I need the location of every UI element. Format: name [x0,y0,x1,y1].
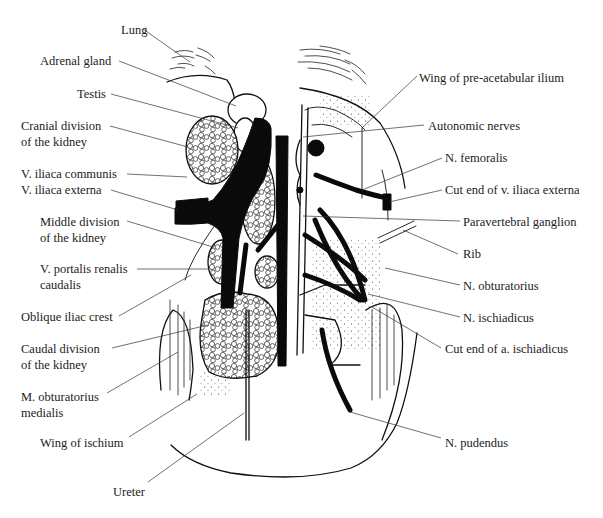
label-line: Wing of ischium [40,436,124,450]
label-line: Adrenal gland [40,54,112,68]
label-line: N. obturatorius [463,279,539,293]
label-adrenal-gland: Adrenal gland [40,54,112,68]
label-n-ischiadicus: N. ischiadicus [463,311,534,325]
stipple-right-pelvis [310,240,380,350]
label-cut-end-a-ischiadicus: Cut end of a. ischiadicus [445,342,568,356]
label-line: M. obturatorius [21,390,99,404]
paravertebral-ganglion-shape [297,187,303,193]
stipple-right-ilium [320,95,370,125]
label-v-portalis-renalis-caudalis: V. portalis renaliscaudalis [40,262,128,292]
leader-n-pudendus [350,412,441,438]
label-line: Cranial division [21,119,102,133]
leader-adrenal-gland [119,61,236,106]
n-femoralis-shape [316,175,388,198]
leader-n-ischiadicus [368,294,460,317]
leader-oblique-iliac-crest [119,275,191,316]
label-line: of the kidney [21,135,88,149]
label-testis: Testis [77,87,106,101]
label-n-obturatorius: N. obturatorius [463,279,539,293]
leader-wing-of-ischium [129,394,197,437]
label-line: V. iliaca communis [21,167,117,181]
v-iliaca-externa-shape [176,198,208,221]
label-line: Paravertebral ganglion [463,215,577,229]
label-line: N. pudendus [445,436,508,450]
label-line: Lung [121,23,148,37]
label-wing-pre-acetabular-ilium: Wing of pre-acetabular ilium [419,71,564,85]
label-line: Caudal division [21,342,101,356]
label-line: medialis [21,406,63,420]
label-ureter: Ureter [113,485,146,499]
leader-wing-pre-acetabular-ilium [363,76,417,127]
label-line: Middle division [40,215,120,229]
leader-ureter [148,413,244,482]
leader-n-femoralis [362,158,442,190]
anatomical-diagram: LungAdrenal glandTestisCranial divisiono… [0,0,603,518]
label-m-obturatorius-medialis: M. obturatoriusmedialis [21,390,99,420]
label-middle-division-kidney: Middle divisionof the kidney [40,215,120,245]
labels-right: Wing of pre-acetabular iliumAutonomic ne… [419,71,580,450]
label-line: V. portalis renalis [40,262,128,276]
label-line: Cut end of v. iliaca externa [445,183,580,197]
label-line: Oblique iliac crest [21,310,113,324]
leader-lung [143,29,190,62]
label-wing-of-ischium: Wing of ischium [40,436,124,450]
middle-division-kidney-right [255,256,279,288]
v-portalis-renalis-caudalis-shape [240,245,246,293]
label-caudal-division-kidney: Caudal divisionof the kidney [21,342,101,372]
drawing [160,46,418,477]
label-v-iliaca-communis: V. iliaca communis [21,167,117,181]
ilium-left-upper-curve [167,75,235,102]
autonomic-nerve-chain [296,140,300,205]
label-oblique-iliac-crest: Oblique iliac crest [21,310,113,324]
label-cranial-division-kidney: Cranial divisionof the kidney [21,119,102,149]
leader-cranial-division-kidney [110,126,188,147]
label-rib: Rib [463,247,481,261]
label-line: Wing of pre-acetabular ilium [419,71,564,85]
caudal-division-kidney-shape [200,292,279,378]
leader-v-iliaca-externa [111,190,178,210]
labels-left: LungAdrenal glandTestisCranial divisiono… [21,23,148,499]
label-line: Autonomic nerves [428,119,520,133]
label-paravertebral-ganglion: Paravertebral ganglion [463,215,577,229]
leader-middle-division-kidney [127,221,213,247]
label-n-pudendus: N. pudendus [445,436,508,450]
label-line: Cut end of a. ischiadicus [445,342,568,356]
label-lung: Lung [121,23,148,37]
label-line: Ureter [113,485,146,499]
label-v-iliaca-externa: V. iliaca externa [21,183,102,197]
label-line: of the kidney [40,231,107,245]
label-line: caudalis [40,278,81,292]
label-line: N. ischiadicus [463,311,534,325]
label-line: of the kidney [21,358,88,372]
leader-cut-end-a-ischiadicus [372,307,441,348]
stipple-left-ischium [200,370,230,395]
lung-left-hatching [170,48,215,74]
m-obturatorius-medialis-left [160,310,194,400]
leader-n-obturatorius [385,268,460,285]
rib-shape [378,221,416,243]
lung-right-hatching [298,46,366,84]
nerve-root-1 [308,140,324,156]
label-line: N. femoralis [445,151,508,165]
leader-cut-end-v-iliaca-externa [389,190,442,202]
leader-v-iliaca-communis [127,174,187,177]
label-line: V. iliaca externa [21,183,102,197]
leader-rib [403,230,458,254]
label-n-femoralis: N. femoralis [445,151,508,165]
label-cut-end-v-iliaca-externa: Cut end of v. iliaca externa [445,183,580,197]
aorta-shape [276,136,288,366]
label-line: Testis [77,87,106,101]
label-line: Rib [463,247,481,261]
label-autonomic-nerves: Autonomic nerves [428,119,520,133]
leader-m-obturatorius-medialis [107,352,178,393]
